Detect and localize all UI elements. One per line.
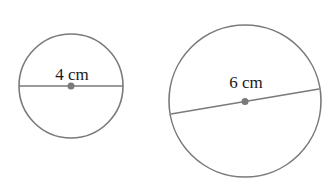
large-circle-diameter-label: 6 cm xyxy=(229,73,263,92)
large-circle-center-dot xyxy=(242,98,249,105)
large-circle-group: 6 cm xyxy=(169,25,321,177)
small-circle-group: 4 cm xyxy=(19,34,123,138)
circles-diagram: 4 cm 6 cm xyxy=(0,0,331,188)
small-circle-diameter-label: 4 cm xyxy=(55,65,89,84)
